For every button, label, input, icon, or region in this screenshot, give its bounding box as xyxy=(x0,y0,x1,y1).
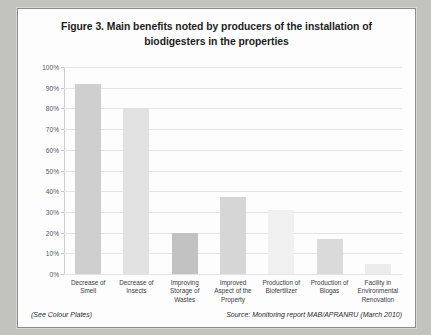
bar-slot xyxy=(112,67,160,274)
bar-slot xyxy=(257,67,305,274)
y-axis-tick-label: 10% xyxy=(46,250,59,257)
y-axis-tick-label: 70% xyxy=(46,126,59,133)
gridline xyxy=(64,274,402,275)
x-axis-category-label: Decrease of Insects xyxy=(112,279,160,304)
bar xyxy=(317,239,343,274)
y-axis-tick-label: 0% xyxy=(49,271,59,278)
y-axis-tick-label: 100% xyxy=(42,64,59,71)
x-axis-category-label: Improving Storage of Wastes xyxy=(161,279,209,304)
y-axis-tick-label: 30% xyxy=(46,208,59,215)
bars-group xyxy=(64,67,402,274)
x-axis-category-label: Improved Aspect of the Property xyxy=(209,279,257,304)
x-axis-category-label: Production of Biogas xyxy=(305,279,353,304)
bar-slot xyxy=(354,67,402,274)
figure-footer: (See Colour Plates) Source: Monitoring r… xyxy=(18,311,415,318)
screenshot-page: Figure 3. Main benefits noted by produce… xyxy=(0,0,431,335)
y-axis-tick-label: 50% xyxy=(46,167,59,174)
figure-container: Figure 3. Main benefits noted by produce… xyxy=(17,8,416,328)
plot-region: 100%90%80%70%60%50%40%30%20%10%0% xyxy=(64,67,402,275)
y-axis-tick-label: 60% xyxy=(46,146,59,153)
y-axis-tick-label: 80% xyxy=(46,105,59,112)
figure-title: Figure 3. Main benefits noted by produce… xyxy=(38,20,395,49)
document-page-background: Figure 3. Main benefits noted by produce… xyxy=(0,0,431,335)
x-axis-category-label: Facility in Environmental Renovation xyxy=(354,279,402,304)
bar-slot xyxy=(161,67,209,274)
y-axis-tick-label: 20% xyxy=(46,229,59,236)
x-axis-labels-group: Decrease of SmellDecrease of InsectsImpr… xyxy=(64,279,402,304)
y-axis-tick-mark xyxy=(61,274,64,275)
chart-area: 100%90%80%70%60%50%40%30%20%10%0% Decrea… xyxy=(18,55,415,285)
bar xyxy=(75,84,101,274)
x-axis-category-label: Production of Biofertilizer xyxy=(257,279,305,304)
bar-slot xyxy=(209,67,257,274)
y-axis-tick-label: 40% xyxy=(46,188,59,195)
bar xyxy=(268,210,294,274)
bar xyxy=(365,264,391,274)
y-axis-tick-label: 90% xyxy=(46,84,59,91)
bar xyxy=(220,197,246,274)
bar-slot xyxy=(305,67,353,274)
x-axis-category-label: Decrease of Smell xyxy=(64,279,112,304)
bar xyxy=(172,233,198,274)
bar-slot xyxy=(64,67,112,274)
footer-source-citation: Source: Monitoring report MAB/APRANRU (M… xyxy=(226,311,402,318)
bar xyxy=(123,108,149,274)
footer-note-colour-plates: (See Colour Plates) xyxy=(31,311,92,318)
